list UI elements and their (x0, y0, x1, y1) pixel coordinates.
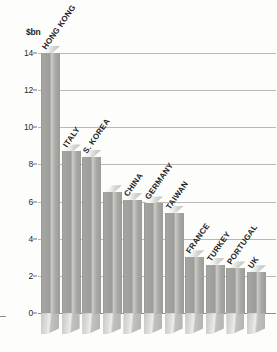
bar-base-shadow (103, 313, 121, 334)
bar-base-shadow (247, 313, 265, 334)
y-axis-tick-mark-6 (33, 201, 37, 202)
bar-chart: $bn 14121086420 HONG KONGITALYS. KOREACH… (0, 0, 277, 352)
y-axis-tick-mark-2 (33, 275, 37, 276)
y-axis-tick-label-0: 0 (28, 308, 33, 318)
bar-body (62, 151, 81, 313)
bar-unlabeled-3 (103, 192, 121, 313)
page-edge-tick (0, 316, 6, 317)
bar-body (144, 203, 163, 313)
y-axis-tick-mark-10 (33, 127, 37, 128)
bar-body (103, 192, 122, 313)
bar-body (41, 53, 60, 313)
y-axis-tick-label-14: 14 (24, 48, 33, 58)
bar-base-shadow (165, 313, 183, 334)
y-axis-tick-mark-4 (33, 238, 37, 239)
bar-body (247, 272, 266, 313)
y-axis-tick-label-6: 6 (28, 197, 33, 207)
bar-base-shadow (206, 313, 224, 334)
category-label-hong-kong: HONG KONG (40, 3, 77, 51)
bar-base-shadow (62, 313, 80, 334)
y-axis-tick-mark-8 (33, 164, 37, 165)
bar-base-shadow (41, 313, 59, 334)
bar-base-shadow (123, 313, 141, 334)
bar-body (82, 157, 101, 313)
bar-france (185, 257, 203, 313)
y-axis-tick-label-10: 10 (24, 122, 33, 132)
bar-portugal (226, 268, 244, 313)
bar-body (206, 265, 225, 313)
bar-body (123, 200, 142, 313)
y-axis-tick-mark-0 (33, 313, 37, 314)
y-axis-tick-mark-12 (33, 90, 37, 91)
bar-uk (247, 272, 265, 313)
bar-base-shadow (82, 313, 100, 334)
bar-s-korea (82, 157, 100, 313)
plot-area: 14121086420 HONG KONGITALYS. KOREACHINAG… (38, 53, 270, 313)
bar-italy (62, 151, 80, 313)
y-axis-tick-label-8: 8 (28, 159, 33, 169)
bar-body (185, 257, 204, 313)
bar-top-face (104, 185, 122, 192)
bar-hong-kong (41, 53, 59, 313)
bar-base-shadow (144, 313, 162, 334)
bar-taiwan (165, 213, 183, 313)
bar-base-shadow (185, 313, 203, 334)
bar-germany (144, 203, 162, 313)
y-axis-tick-mark-14 (33, 53, 37, 54)
bar-turkey (206, 265, 224, 313)
axis-unit-label: $bn (26, 27, 41, 37)
bar-china (123, 200, 141, 313)
y-axis-tick-label-12: 12 (24, 85, 33, 95)
y-axis-tick-label-4: 4 (28, 234, 33, 244)
bar-base-shadow (226, 313, 244, 334)
y-axis-tick-label-2: 2 (28, 271, 33, 281)
bar-body (165, 213, 184, 313)
bar-body (226, 268, 245, 313)
